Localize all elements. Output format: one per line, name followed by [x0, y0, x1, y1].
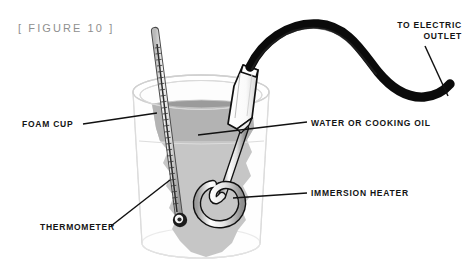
label-thermometer: THERMOMETER	[40, 222, 115, 233]
leader-outlet	[425, 46, 448, 96]
label-to-electric-outlet: TO ELECTRIC OUTLET	[397, 20, 462, 42]
label-to-electric-outlet-line1: TO ELECTRIC	[397, 20, 462, 31]
label-foam-cup: FOAM CUP	[22, 119, 73, 130]
figure-caption: [ FIGURE 10 ]	[18, 22, 114, 34]
figure-illustration: [ FIGURE 10 ] FOAM CUP THERMOMETER WATER…	[0, 0, 471, 271]
label-to-electric-outlet-line2: OUTLET	[397, 31, 462, 42]
label-water-or-cooking-oil: WATER OR COOKING OIL	[311, 118, 431, 129]
label-immersion-heater: IMMERSION HEATER	[311, 188, 409, 199]
